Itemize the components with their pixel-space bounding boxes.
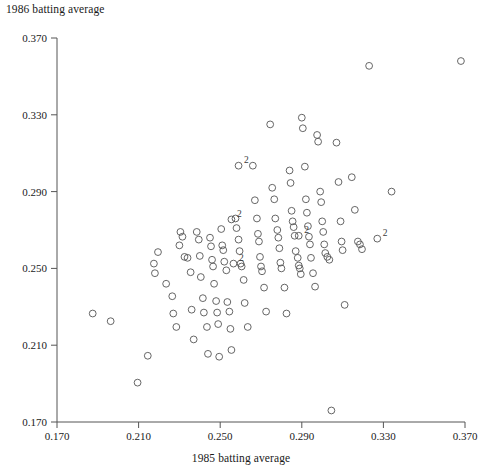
data-point	[193, 229, 200, 236]
data-point	[190, 336, 197, 343]
data-point	[233, 225, 240, 232]
data-point	[298, 114, 305, 121]
data-point	[254, 215, 261, 222]
data-point	[351, 206, 358, 213]
data-point	[259, 268, 266, 275]
data-point	[208, 243, 215, 250]
data-point	[274, 227, 281, 234]
data-point	[267, 121, 274, 128]
data-point	[294, 254, 301, 261]
data-point	[163, 280, 170, 287]
data-point	[292, 248, 299, 255]
data-point	[338, 238, 345, 245]
data-point	[155, 249, 162, 256]
data-point	[283, 310, 290, 317]
data-point	[310, 270, 317, 277]
data-point	[199, 295, 206, 302]
overlap-count-label: 2	[237, 209, 242, 219]
plot-canvas: 22222	[0, 0, 482, 471]
data-point	[295, 232, 302, 239]
data-point	[308, 254, 315, 261]
x-axis-ticks	[57, 422, 465, 428]
data-point	[458, 58, 465, 65]
data-point	[170, 310, 177, 317]
data-point	[107, 318, 114, 325]
data-point	[261, 284, 268, 291]
data-point	[220, 247, 227, 254]
data-point	[315, 138, 322, 145]
data-point	[251, 197, 258, 204]
data-point	[89, 310, 96, 317]
data-point	[318, 199, 325, 206]
data-point	[207, 234, 214, 241]
data-point	[204, 324, 211, 331]
scatter-plot: 1986 batting average 1985 batting averag…	[0, 0, 482, 471]
data-point	[213, 298, 220, 305]
data-point	[211, 280, 218, 287]
data-point	[258, 263, 265, 270]
data-point	[257, 253, 264, 260]
data-point	[314, 132, 321, 139]
overlap-count-label: 2	[304, 225, 309, 235]
y-axis-ticks	[51, 38, 57, 422]
data-point	[366, 62, 373, 69]
data-point	[291, 232, 298, 239]
data-point	[223, 267, 230, 274]
data-point	[226, 308, 233, 315]
data-point	[255, 230, 262, 237]
data-point	[235, 162, 242, 169]
data-point	[286, 167, 293, 174]
data-point	[276, 245, 283, 252]
data-point	[219, 242, 226, 249]
data-point	[215, 321, 222, 328]
data-point	[214, 309, 221, 316]
data-point	[216, 353, 223, 360]
data-point	[328, 407, 335, 414]
overlap-count-label: 2	[383, 228, 388, 238]
data-point	[196, 253, 203, 260]
data-point	[187, 269, 194, 276]
data-point	[134, 379, 141, 386]
data-point	[169, 293, 176, 300]
data-point	[287, 180, 294, 187]
data-point	[272, 215, 279, 222]
data-point	[230, 260, 237, 267]
overlap-count-label: 2	[239, 253, 244, 263]
data-point	[209, 256, 216, 263]
data-point	[321, 241, 328, 248]
data-point	[335, 179, 342, 186]
data-point	[275, 234, 282, 241]
axis-lines	[57, 38, 465, 422]
data-point	[288, 207, 295, 214]
data-point	[144, 352, 151, 359]
data-point	[240, 277, 247, 284]
data-point	[348, 174, 355, 181]
data-point	[341, 301, 348, 308]
data-point	[188, 306, 195, 313]
data-point	[304, 209, 311, 216]
data-point	[249, 162, 256, 169]
data-point	[374, 235, 381, 242]
data-point	[320, 229, 327, 236]
data-point	[256, 238, 263, 245]
data-point	[152, 270, 159, 277]
data-point	[388, 188, 395, 195]
data-point	[235, 236, 242, 243]
data-point	[322, 250, 329, 257]
data-point	[319, 218, 326, 225]
data-point	[241, 300, 248, 307]
data-point	[244, 324, 251, 331]
data-point	[333, 139, 340, 146]
data-point	[218, 226, 225, 233]
data-point	[176, 242, 183, 249]
data-point	[301, 163, 308, 170]
data-point	[337, 218, 344, 225]
data-point	[210, 263, 217, 270]
data-point	[151, 260, 158, 267]
data-point	[302, 196, 309, 203]
data-point	[312, 283, 319, 290]
data-point	[317, 188, 324, 195]
data-point	[228, 216, 235, 223]
data-point	[197, 274, 204, 281]
data-point-markers	[89, 58, 464, 414]
